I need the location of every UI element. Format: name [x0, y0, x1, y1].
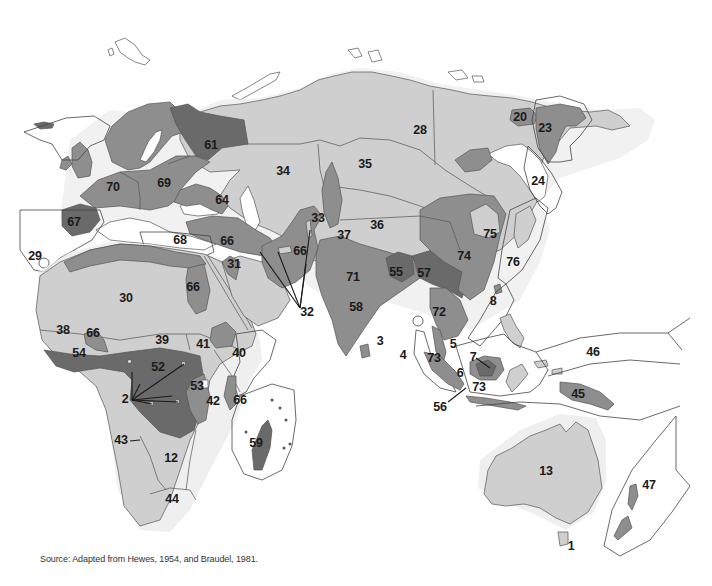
label-39: 39	[155, 333, 169, 347]
label-3: 3	[377, 334, 384, 348]
label-12: 12	[164, 451, 178, 465]
label-30: 30	[119, 291, 133, 305]
label-23: 23	[538, 121, 552, 135]
label-73-sumatra: 73	[427, 351, 441, 365]
label-29: 29	[28, 249, 42, 263]
label-76: 76	[506, 255, 520, 269]
label-66-iran: 66	[293, 244, 307, 258]
label-28: 28	[413, 123, 427, 137]
label-69: 69	[157, 176, 171, 190]
label-38: 38	[56, 323, 70, 337]
label-13: 13	[539, 464, 553, 478]
label-66-westafrica: 66	[86, 326, 100, 340]
source-caption: Source: Adapted from Hewes, 1954, and Br…	[40, 554, 258, 564]
label-53: 53	[190, 379, 204, 393]
label-64: 64	[215, 193, 229, 207]
world-regions-map: 28 20 23 24 35 34 61 70 69 64 67 68 66 3…	[0, 0, 712, 586]
label-70: 70	[106, 180, 120, 194]
label-35: 35	[358, 157, 372, 171]
label-71: 71	[346, 270, 360, 284]
label-5: 5	[450, 337, 457, 351]
label-40: 40	[232, 346, 246, 360]
label-8: 8	[490, 294, 497, 308]
label-66-eastafrica: 66	[233, 393, 247, 407]
label-67: 67	[67, 215, 81, 229]
label-68: 68	[173, 233, 187, 247]
label-47: 47	[642, 478, 656, 492]
label-74: 74	[457, 249, 471, 263]
label-41: 41	[196, 337, 210, 351]
label-55: 55	[389, 265, 403, 279]
label-66-sahara: 66	[186, 280, 200, 294]
label-43: 43	[114, 433, 128, 447]
label-31: 31	[227, 257, 241, 271]
label-58: 58	[349, 300, 363, 314]
label-59: 59	[249, 436, 263, 450]
label-75: 75	[483, 227, 497, 241]
label-4: 4	[400, 348, 407, 362]
label-44: 44	[165, 492, 179, 506]
australia	[478, 414, 690, 556]
label-7: 7	[470, 350, 477, 364]
label-1: 1	[568, 539, 575, 553]
label-45: 45	[571, 387, 585, 401]
label-6: 6	[457, 366, 464, 380]
label-73-borneo: 73	[472, 380, 486, 394]
label-56: 56	[433, 400, 447, 414]
label-46: 46	[586, 345, 600, 359]
label-72: 72	[432, 305, 446, 319]
label-20: 20	[513, 110, 527, 124]
label-24: 24	[531, 174, 545, 188]
label-37: 37	[337, 228, 351, 242]
label-52: 52	[151, 360, 165, 374]
label-33: 33	[311, 211, 325, 225]
label-54: 54	[72, 346, 86, 360]
label-34: 34	[276, 164, 290, 178]
label-66-anatolia: 66	[220, 234, 234, 248]
label-2: 2	[122, 392, 129, 406]
label-36: 36	[370, 218, 384, 232]
label-32: 32	[300, 305, 314, 319]
label-57: 57	[417, 266, 431, 280]
label-61: 61	[204, 138, 218, 152]
label-42: 42	[206, 394, 220, 408]
africa	[36, 242, 296, 532]
